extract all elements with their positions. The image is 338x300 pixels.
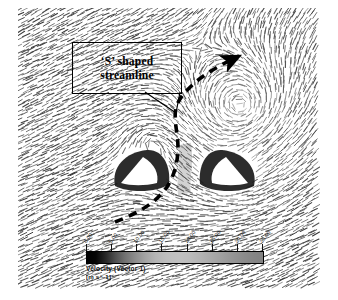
colorbar-tick-label: 30.00 <box>233 229 246 244</box>
colorbar-ticks: 0.005.0010.0015.0020.0025.0030.0035.00 <box>86 232 262 251</box>
annotation-callout-box: ‘S’ shaped streamline <box>72 42 182 94</box>
colorbar-tick-mark <box>136 244 137 251</box>
colorbar-tick-label: 15.00 <box>158 229 171 244</box>
colorbar-units: [m s^-1] <box>86 273 111 280</box>
colorbar-tick-mark <box>187 244 188 251</box>
colorbar-tick-label: 5.00 <box>107 232 118 244</box>
annotation-line-1: ‘S’ shaped <box>101 54 154 68</box>
body-left <box>114 150 169 191</box>
colorbar-gradient <box>86 251 264 264</box>
velocity-vector-field-figure: ‘S’ shaped streamline 0.005.0010.0015.00… <box>0 0 338 300</box>
colorbar-tick-label: 20.00 <box>183 229 196 244</box>
colorbar-tick-mark <box>161 244 162 251</box>
colorbar-tick-mark <box>237 244 238 251</box>
colorbar-legend: 0.005.0010.0015.0020.0025.0030.0035.00 V… <box>86 232 266 288</box>
annotation-line-2: streamline <box>100 68 154 82</box>
colorbar-tick-mark <box>212 244 213 251</box>
colorbar-title: Velocity (Vector 1) <box>86 265 146 272</box>
colorbar-tick-label: 10.00 <box>133 229 146 244</box>
colorbar-tick-mark <box>86 244 87 251</box>
colorbar-tick-mark <box>111 244 112 251</box>
colorbar-tick-mark <box>262 244 263 251</box>
body-right <box>200 150 255 191</box>
colorbar-tick-label: 25.00 <box>208 229 221 244</box>
